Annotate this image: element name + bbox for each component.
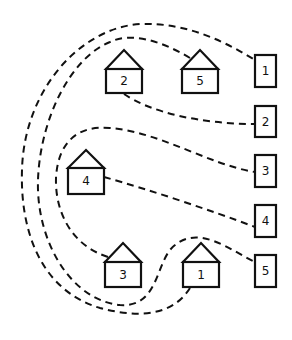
diagram-canvas: 2 5 4 3 1 1 2 — [0, 0, 292, 340]
box-5: 5 — [255, 255, 276, 287]
box-3: 3 — [255, 155, 276, 187]
path-house2-to-box2 — [124, 94, 255, 124]
house-roof — [105, 243, 141, 262]
house-roof — [183, 243, 219, 262]
diagram-svg: 2 5 4 3 1 1 2 — [0, 0, 292, 340]
house-roof — [106, 50, 142, 69]
house-label: 4 — [82, 174, 90, 188]
box-label: 1 — [262, 64, 270, 78]
house-1: 1 — [183, 243, 219, 287]
box-label: 3 — [262, 164, 270, 178]
box-label: 2 — [262, 115, 270, 129]
house-label: 5 — [196, 74, 204, 88]
house-roof — [182, 50, 218, 69]
box-label: 5 — [262, 264, 270, 278]
house-4: 4 — [68, 150, 104, 194]
house-label: 1 — [197, 268, 205, 282]
house-label: 2 — [120, 74, 128, 88]
house-roof — [68, 150, 104, 168]
box-4: 4 — [255, 205, 276, 237]
house-2: 2 — [106, 50, 142, 93]
box-2: 2 — [255, 106, 276, 137]
box-label: 4 — [262, 214, 270, 228]
house-3: 3 — [105, 243, 141, 287]
path-house4-to-box4 — [104, 177, 255, 227]
box-1: 1 — [255, 55, 276, 87]
house-label: 3 — [119, 268, 127, 282]
